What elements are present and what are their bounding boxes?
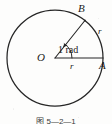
figure-container: B A O r r 1 rad 图 5—2—1 [0, 0, 112, 124]
circle-radian-diagram [0, 0, 112, 124]
label-radius-upper: r [98, 27, 102, 36]
point-b-marker [84, 20, 86, 22]
label-point-a: A [99, 60, 106, 71]
label-point-b: B [78, 3, 85, 14]
label-center-o: O [37, 52, 45, 63]
figure-caption: 图 5—2—1 [0, 115, 112, 124]
label-radius-lower: r [70, 62, 74, 71]
label-angle-value: 1 rad [58, 45, 78, 55]
